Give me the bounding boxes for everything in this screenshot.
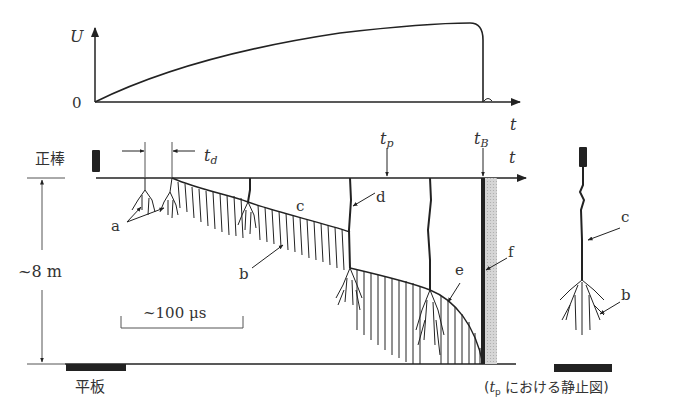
plate-electrode (66, 364, 126, 371)
static-rod (579, 147, 587, 167)
streak-diagram: 正棒 t ~8 m 平板 td tp tB (18, 129, 526, 396)
voltage-graph: U 0 t (70, 23, 520, 134)
static-branches (560, 280, 604, 335)
label-pointers (127, 193, 507, 302)
voltage-curve (95, 23, 483, 102)
marker-e: e (455, 261, 464, 279)
plate-label: 平板 (75, 378, 105, 396)
rod-electrode (92, 150, 100, 172)
hatch-b (178, 182, 344, 270)
hatch-e (357, 270, 480, 364)
tb-label: tB (474, 129, 489, 150)
leader-boundary-c (172, 178, 350, 232)
time-axis-label: t (509, 148, 516, 167)
scale-bar-label: ~100 μs (143, 304, 206, 322)
static-caption: (tp における静止図) (484, 379, 609, 397)
tp-label: tp (380, 129, 393, 150)
origin-label: 0 (72, 94, 82, 112)
u-axis-label: U (70, 27, 84, 46)
breakdown-region (485, 178, 497, 364)
static-marker-c: c (621, 208, 629, 226)
t-axis-label: t (510, 115, 517, 134)
static-channel (580, 167, 584, 280)
static-diagram: c b (tp における静止図) (484, 147, 631, 397)
static-plate (554, 364, 612, 372)
marker-b: b (239, 265, 249, 283)
marker-c: c (296, 197, 304, 215)
gap-label: ~8 m (18, 262, 62, 281)
marker-d: d (376, 188, 386, 206)
lightning-discharge-diagram: U 0 t 正棒 t ~8 m 平板 td tp tB (0, 0, 684, 415)
rod-label: 正棒 (35, 150, 65, 168)
td-label: td (204, 146, 217, 167)
leader-boundary-e (350, 268, 483, 364)
static-marker-b: b (621, 286, 631, 304)
final-jump-channel (481, 178, 485, 364)
marker-f: f (508, 243, 515, 261)
marker-a: a (111, 217, 120, 235)
leader-channels (248, 178, 431, 290)
